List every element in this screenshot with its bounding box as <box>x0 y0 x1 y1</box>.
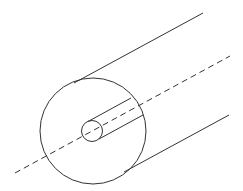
axis-dashed-line <box>15 56 230 173</box>
outer-bottom-line <box>124 115 229 172</box>
inner-circle <box>82 121 103 142</box>
inner-top-line <box>88 98 131 122</box>
inner-bottom-line <box>99 115 143 139</box>
coaxial-cylinder-diagram <box>0 0 243 191</box>
outer-top-line <box>74 13 203 83</box>
outer-circle <box>40 78 146 184</box>
